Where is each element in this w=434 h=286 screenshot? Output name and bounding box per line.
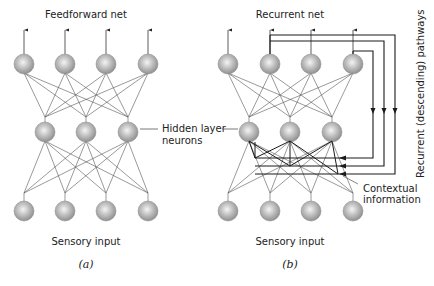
hidden-neuron	[322, 122, 342, 142]
output-neuron	[55, 54, 75, 74]
recurrent-pathway-line	[270, 41, 384, 166]
input-neuron	[301, 201, 321, 221]
hidden-neuron	[239, 122, 259, 142]
connection-line	[24, 141, 128, 193]
hidden-neuron	[76, 122, 96, 142]
output-neuron	[14, 54, 34, 74]
panel-b-input-label: Sensory input	[255, 236, 324, 247]
input-neuron	[343, 201, 363, 221]
input-neuron	[55, 201, 75, 221]
contextual-info-label: Contextual	[363, 183, 417, 194]
connection-line	[228, 141, 290, 193]
connection-line	[228, 73, 249, 117]
left-arrow-icon	[339, 172, 346, 177]
input-neuron	[14, 201, 34, 221]
input-neuron	[218, 201, 238, 221]
hidden-layer-label-line2: neurons	[162, 135, 202, 146]
connection-line	[128, 141, 148, 193]
recurrent-pathway-line	[270, 35, 395, 174]
connection-line	[290, 73, 353, 117]
connection-line	[45, 73, 65, 117]
connection-line	[128, 73, 148, 117]
output-neuron	[343, 54, 363, 74]
panel-b-title: Recurrent net	[256, 9, 324, 20]
connection-line	[228, 141, 249, 193]
output-neuron	[301, 54, 321, 74]
connection-line	[311, 141, 332, 193]
output-neuron	[218, 54, 238, 74]
connection-line	[106, 141, 128, 193]
hidden-neuron	[118, 122, 138, 142]
down-arrow-icon	[382, 108, 387, 114]
connection-line	[24, 141, 45, 193]
panel-a-title: Feedforward net	[45, 9, 127, 20]
connection-line	[86, 141, 106, 193]
context-leader	[343, 176, 358, 184]
hidden-neuron	[280, 122, 300, 142]
connection-line	[86, 73, 148, 117]
connection-line	[24, 141, 86, 193]
input-neuron	[96, 201, 116, 221]
down-arrow-icon	[393, 108, 398, 114]
output-neuron	[96, 54, 116, 74]
connection-line	[249, 73, 270, 117]
input-neuron	[138, 201, 158, 221]
hidden-layer-label: Hidden layer	[162, 123, 227, 134]
connection-line	[249, 73, 353, 117]
contextual-info-label-line2: information	[363, 194, 421, 205]
panel-a-caption: (a)	[78, 258, 93, 271]
panel-feedforward	[14, 30, 158, 221]
neural-network-diagram: Feedforward net Recurrent net Hidden lay…	[0, 0, 434, 286]
input-neuron	[260, 201, 280, 221]
panel-a-input-label: Sensory input	[51, 236, 120, 247]
connection-line	[332, 73, 353, 117]
left-arrow-icon	[339, 156, 346, 161]
output-neuron	[260, 54, 280, 74]
connection-line	[228, 141, 332, 193]
hidden-neuron	[35, 122, 55, 142]
panel-b-caption: (b)	[282, 258, 298, 271]
recurrent-pathways-label: Recurrent (descending) pathways	[415, 9, 426, 178]
connection-line	[24, 73, 45, 117]
down-arrow-icon	[371, 108, 376, 114]
output-neuron	[138, 54, 158, 74]
